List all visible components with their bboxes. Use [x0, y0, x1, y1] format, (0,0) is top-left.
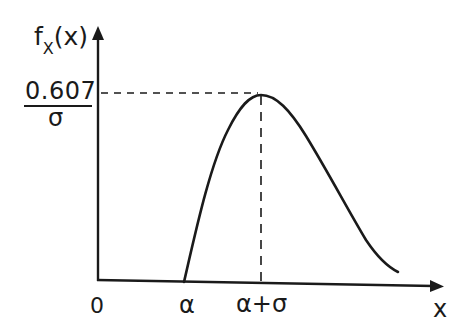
x-axis-arrow-icon: [430, 280, 444, 292]
y-label-subscript: X: [43, 39, 54, 58]
y-axis-label: fX(x): [34, 22, 88, 51]
x-axis: [97, 280, 434, 286]
x-tick-origin: 0: [90, 293, 104, 318]
y-axis-arrow-icon: [92, 26, 104, 40]
chart-figure: fX(x) 0.607 σ 0 α α+σ x: [0, 0, 465, 329]
density-curve: [184, 95, 398, 282]
x-axis-label: x: [433, 295, 447, 323]
x-tick-alpha: α: [179, 291, 195, 319]
y-tick-denominator: σ: [48, 104, 63, 132]
y-label-argument: (x): [54, 22, 88, 51]
x-tick-alpha-plus-sigma: α+σ: [236, 290, 287, 318]
y-tick-numerator: 0.607: [25, 77, 96, 105]
y-label-main: f: [34, 22, 43, 51]
